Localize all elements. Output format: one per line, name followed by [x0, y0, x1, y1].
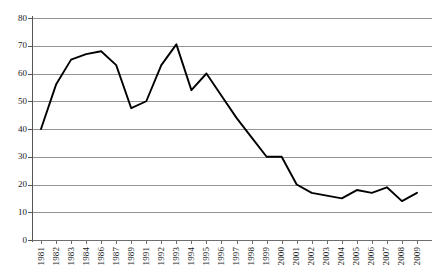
line-chart: 80706050403020100 1981198219831984198619…	[0, 0, 447, 280]
series-line-path	[41, 44, 417, 201]
series-line	[0, 0, 447, 280]
